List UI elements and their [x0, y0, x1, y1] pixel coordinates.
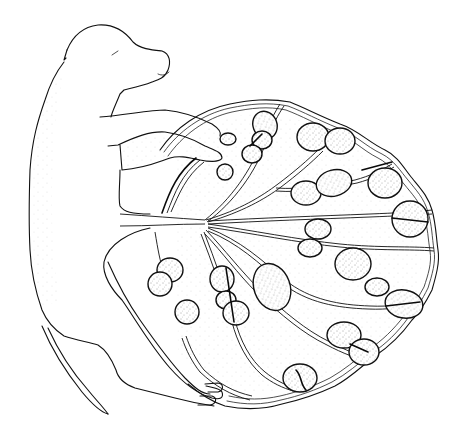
fetus-foreleg-shading	[120, 134, 170, 168]
illustration-canvas	[0, 0, 468, 447]
fetus-head-outline	[67, 25, 170, 117]
fetus-eye	[112, 51, 118, 55]
cotyledon	[365, 278, 389, 296]
cotyledon	[297, 123, 329, 151]
cotyledon	[242, 145, 262, 163]
cotyledon	[175, 300, 199, 324]
cotyledon	[220, 133, 236, 145]
cotyledon	[148, 272, 172, 296]
fetus-ear	[64, 50, 67, 60]
fetus-shading	[32, 70, 64, 308]
placenta	[160, 100, 439, 409]
cotyledon	[349, 339, 379, 365]
cotyledon	[298, 239, 322, 257]
fetus-tail-inner	[48, 328, 108, 414]
cotyledon	[223, 301, 249, 325]
cotyledon	[335, 248, 371, 280]
fetus-belly	[119, 170, 150, 214]
cotyledon	[217, 164, 233, 180]
cotyledon	[210, 266, 234, 292]
fetus-placenta-drawing	[0, 0, 468, 447]
cotyledon	[305, 219, 331, 239]
cotyledon	[325, 128, 355, 154]
cotyledon	[368, 168, 402, 198]
